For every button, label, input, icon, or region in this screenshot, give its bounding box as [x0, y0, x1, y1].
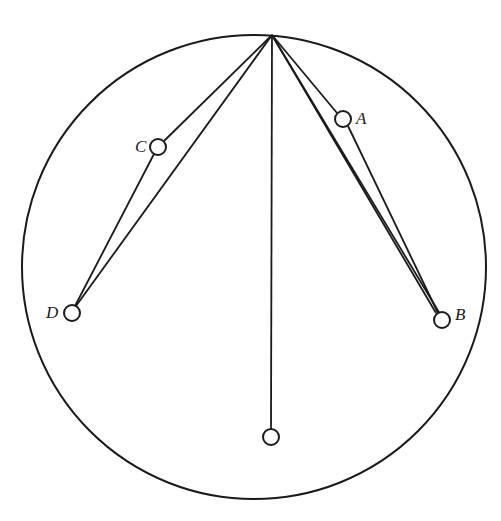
bob-e	[263, 429, 279, 445]
label-b: B	[455, 305, 466, 324]
label-c: C	[135, 137, 147, 156]
string-vertical	[271, 35, 272, 429]
bob-d	[64, 305, 80, 321]
strings-group	[75, 35, 440, 429]
label-a: A	[355, 109, 367, 128]
string-ab-link	[348, 126, 438, 313]
string-cd-link	[75, 154, 154, 306]
pendulum-diagram: ABCD	[0, 0, 501, 521]
bob-b	[434, 312, 450, 328]
string-c-inner	[164, 35, 272, 141]
label-d: D	[45, 303, 59, 322]
labels-group: ABCD	[45, 109, 466, 324]
string-b-direct	[272, 35, 440, 314]
string-d-direct	[76, 35, 272, 306]
bob-c	[150, 139, 166, 155]
bobs-group	[64, 111, 450, 445]
bob-a	[335, 111, 351, 127]
